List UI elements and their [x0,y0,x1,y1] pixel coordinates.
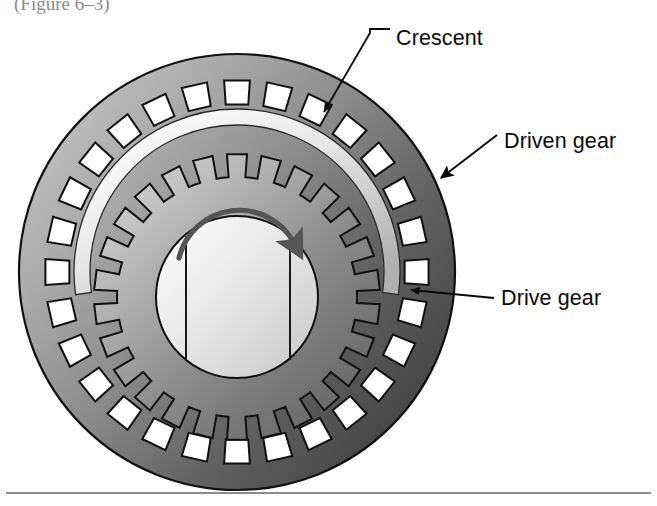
drive-gear-label: Drive gear [501,286,601,310]
driven-gear-tooth-gap [45,259,69,285]
driven-gear-tooth-gap [224,440,250,464]
driven-gear-tooth-gap [224,80,250,104]
driven-gear-arrow-icon [441,135,497,178]
clipped-caption-text: (Figure 6–3) [14,0,110,15]
driven-gear-label: Driven gear [504,129,616,153]
gear-pump-diagram: (Figure 6–3) Cre [0,0,657,506]
drive-gear-inner [94,154,380,439]
crescent-label: Crescent [396,26,483,50]
callout-driven-gear: Driven gear [441,129,616,178]
figure-root: (Figure 6–3) Cre [0,0,657,506]
clipped-caption: (Figure 6–3) [14,0,110,15]
driven-gear-tooth-gap [405,259,429,285]
